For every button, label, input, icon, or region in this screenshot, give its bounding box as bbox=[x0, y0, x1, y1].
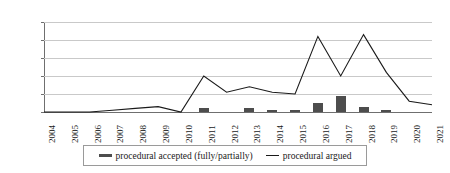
legend-item-procedural-accepted: procedural accepted (fully/partially) bbox=[99, 151, 253, 161]
x-tick-label-2009: 2009 bbox=[162, 125, 171, 143]
x-tick-label-2017: 2017 bbox=[345, 125, 354, 143]
line-swatch-icon bbox=[266, 155, 279, 156]
legend-item-procedural-argued: procedural argued bbox=[266, 151, 352, 161]
legend-label-procedural-argued: procedural argued bbox=[283, 151, 352, 161]
x-tick-label-2005: 2005 bbox=[71, 125, 80, 143]
line-series-svg bbox=[44, 22, 432, 112]
x-tick-label-2014: 2014 bbox=[276, 125, 285, 143]
x-tick-label-2010: 2010 bbox=[185, 125, 194, 143]
x-tick-label-2012: 2012 bbox=[231, 125, 240, 143]
x-tick-label-2019: 2019 bbox=[390, 125, 399, 143]
x-tick-label-2020: 2020 bbox=[413, 125, 422, 143]
x-tick-label-2016: 2016 bbox=[322, 125, 331, 143]
procedural-argued-path bbox=[44, 35, 432, 112]
plot-area bbox=[44, 22, 432, 112]
x-axis: 2004200520062007200820092010201120122013… bbox=[44, 113, 432, 145]
x-tick-label-2018: 2018 bbox=[368, 125, 377, 143]
legend-label-procedural-accepted: procedural accepted (fully/partially) bbox=[116, 151, 253, 161]
x-tick-label-2004: 2004 bbox=[48, 125, 57, 143]
x-tick-label-2021: 2021 bbox=[436, 125, 445, 143]
x-tick-label-2011: 2011 bbox=[208, 125, 217, 143]
x-tick-label-2015: 2015 bbox=[299, 125, 308, 143]
bar-swatch-icon bbox=[99, 154, 112, 158]
chart-legend: procedural accepted (fully/partially) pr… bbox=[83, 145, 367, 166]
x-tick-label-2008: 2008 bbox=[139, 125, 148, 143]
x-tick-label-2007: 2007 bbox=[116, 125, 125, 143]
x-tick-label-2006: 2006 bbox=[94, 125, 103, 143]
line-series-procedural-argued bbox=[44, 22, 432, 112]
chart-container: 01020304050 2004200520062007200820092010… bbox=[0, 0, 450, 173]
x-tick-label-2013: 2013 bbox=[253, 125, 262, 143]
